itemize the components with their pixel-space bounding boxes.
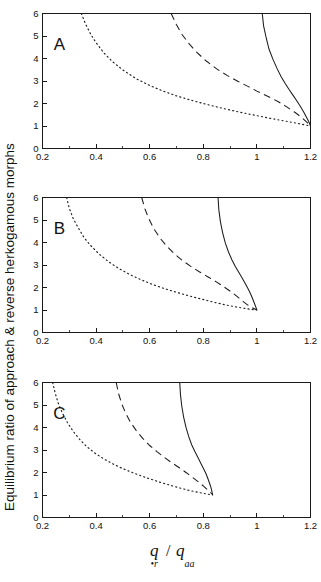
y-tick-label-C-2: 2 xyxy=(33,467,38,478)
curve-B-dotted xyxy=(67,198,257,311)
x-tick-label-C-5: 1.2 xyxy=(304,520,317,531)
y-tick-label-A-1: 1 xyxy=(33,120,38,131)
panel-letter-C: C xyxy=(53,404,65,423)
x-tick-label-B-5: 1.2 xyxy=(304,335,317,346)
panel-B: 0.20.40.60.811.20123456B xyxy=(33,192,317,346)
x-tick-label-A-2: 0.6 xyxy=(143,151,156,162)
panel-frame-C xyxy=(43,383,311,518)
y-tick-label-B-0: 0 xyxy=(33,327,38,338)
x-tick-label-B-1: 0.4 xyxy=(89,335,102,346)
x-tick-label-A-1: 0.4 xyxy=(89,151,102,162)
y-axis-title: Equilibrium ratio of approach & reverse … xyxy=(2,143,17,511)
curve-A-dashed xyxy=(171,14,310,127)
x-axis-title-numerator-sub: •r xyxy=(151,558,159,569)
panel-frame-A xyxy=(43,14,311,149)
x-axis-title-separator: / xyxy=(166,542,171,559)
x-tick-label-A-5: 1.2 xyxy=(304,151,317,162)
y-tick-label-B-5: 5 xyxy=(33,214,38,225)
x-tick-label-B-2: 0.6 xyxy=(143,335,156,346)
x-tick-label-C-2: 0.6 xyxy=(143,520,156,531)
curve-C-dotted xyxy=(53,383,213,496)
panel-letter-B: B xyxy=(54,219,65,238)
y-tick-label-A-4: 4 xyxy=(33,53,38,64)
x-tick-label-C-3: 0.8 xyxy=(197,520,210,531)
y-tick-label-C-0: 0 xyxy=(33,512,38,523)
y-tick-label-B-4: 4 xyxy=(33,237,38,248)
curve-C-dashed xyxy=(116,383,212,496)
x-tick-label-C-4: 1 xyxy=(254,520,259,531)
y-tick-label-A-5: 5 xyxy=(33,30,38,41)
panel-frame-B xyxy=(43,198,311,333)
y-tick-label-A-3: 3 xyxy=(33,75,38,86)
y-tick-label-A-2: 2 xyxy=(33,98,38,109)
y-tick-label-C-4: 4 xyxy=(33,422,38,433)
y-tick-label-C-6: 6 xyxy=(33,377,38,388)
curve-C-solid xyxy=(180,383,213,496)
figure-svg: 0.20.40.60.811.20123456A0.20.40.60.811.2… xyxy=(0,0,321,582)
x-axis-title-denominator-sub: aa xyxy=(185,558,195,569)
curve-B-dashed xyxy=(142,198,257,311)
curve-B-solid xyxy=(218,198,257,311)
x-axis-title: q•r/qaa xyxy=(150,541,195,569)
panel-letter-A: A xyxy=(54,35,66,54)
curve-A-dotted xyxy=(81,14,310,127)
x-tick-label-B-3: 0.8 xyxy=(197,335,210,346)
curve-A-solid xyxy=(262,14,310,127)
panel-C: 0.20.40.60.811.20123456C xyxy=(33,377,317,531)
y-tick-label-A-0: 0 xyxy=(33,143,38,154)
y-tick-label-A-6: 6 xyxy=(33,8,38,19)
x-tick-label-A-3: 0.8 xyxy=(197,151,210,162)
x-tick-label-B-4: 1 xyxy=(254,335,259,346)
y-tick-label-B-3: 3 xyxy=(33,259,38,270)
y-tick-label-B-1: 1 xyxy=(33,304,38,315)
x-tick-label-A-4: 1 xyxy=(254,151,259,162)
y-tick-label-B-6: 6 xyxy=(33,192,38,203)
figure-container: 0.20.40.60.811.20123456A0.20.40.60.811.2… xyxy=(0,0,321,582)
x-tick-label-C-1: 0.4 xyxy=(89,520,102,531)
y-tick-label-B-2: 2 xyxy=(33,282,38,293)
panel-A: 0.20.40.60.811.20123456A xyxy=(33,8,317,162)
y-tick-label-C-5: 5 xyxy=(33,399,38,410)
y-tick-label-C-3: 3 xyxy=(33,444,38,455)
y-tick-label-C-1: 1 xyxy=(33,489,38,500)
